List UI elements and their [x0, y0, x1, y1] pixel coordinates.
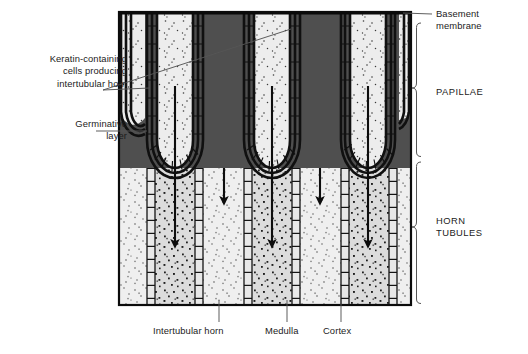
papillae-bracket	[412, 23, 421, 157]
label-basement-membrane: Basement membrane	[436, 8, 522, 33]
label-intertubular-horn: Intertubular horn	[153, 325, 224, 337]
label-germinative-layer: Germinative layer	[17, 118, 127, 143]
label-medulla: Medulla	[265, 325, 299, 337]
label-horn-tubules: HORN TUBULES	[436, 215, 522, 240]
label-papillae: PAPILLAE	[436, 86, 522, 98]
diagram-body	[119, 12, 411, 305]
zone-brackets	[412, 23, 421, 304]
figure-root: Keratin-containing cells producing inter…	[0, 0, 528, 354]
papilla-edge	[399, 12, 411, 129]
label-keratin-containing-cells: Keratin-containing cells producing inter…	[17, 53, 127, 90]
horn-tubules-bracket	[412, 162, 421, 304]
label-cortex: Cortex	[323, 325, 351, 337]
